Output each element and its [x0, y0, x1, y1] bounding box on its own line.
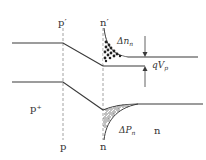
- label-n-region: n: [154, 125, 161, 136]
- label-n-prime: n′: [100, 17, 109, 28]
- label-delta-p: ΔPn: [118, 125, 136, 136]
- label-delta-n: Δnn: [116, 36, 133, 47]
- label-qv: qVp: [152, 60, 168, 72]
- valence-band: [12, 82, 103, 110]
- arrow-head-up: [143, 66, 148, 71]
- label-p-region: p⁺: [30, 103, 42, 114]
- band-diagram: p′ n′ p n p⁺ n Δnn ΔPn qVp: [0, 0, 206, 160]
- label-p-prime: p′: [58, 17, 67, 28]
- label-n-bottom: n: [100, 141, 107, 152]
- arrow-head-down: [143, 52, 148, 57]
- conduction-band: [12, 43, 103, 66]
- label-p-bottom: p: [60, 141, 66, 152]
